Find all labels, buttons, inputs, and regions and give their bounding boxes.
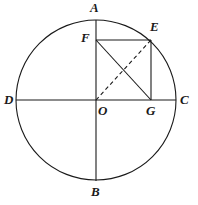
vertex-label-C: C (180, 93, 189, 106)
vertex-label-O: O (98, 104, 107, 117)
geometry-figure: A B C D E F G O (0, 0, 198, 205)
vertex-label-B: B (91, 185, 100, 198)
diagonal-FG (96, 40, 151, 100)
vertex-label-A: A (90, 1, 99, 14)
vertex-label-F: F (81, 31, 90, 44)
vertex-label-E: E (150, 20, 159, 33)
vertex-label-G: G (146, 104, 155, 117)
vertex-label-D: D (4, 93, 13, 106)
